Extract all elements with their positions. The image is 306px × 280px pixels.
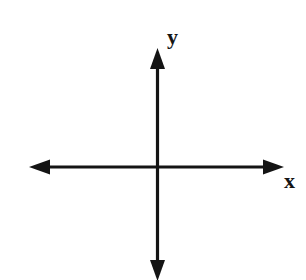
axes-drawing bbox=[0, 0, 306, 280]
diagram-background bbox=[0, 0, 306, 280]
coordinate-axes-diagram: y x bbox=[0, 0, 306, 280]
y-axis-label: y bbox=[167, 26, 178, 48]
x-axis-label: x bbox=[284, 170, 295, 192]
